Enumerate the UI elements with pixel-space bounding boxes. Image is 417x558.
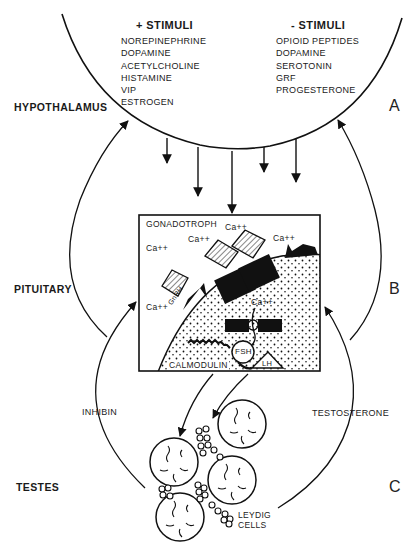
inhibin-label: INHIBIN bbox=[82, 407, 117, 417]
hypothalamus-label: HYPOTHALAMUS bbox=[14, 101, 107, 113]
negative-stimuli-title: - STIMULI bbox=[291, 19, 345, 31]
inhibin-loop bbox=[96, 302, 145, 488]
list-item: DOPAMINE bbox=[121, 47, 206, 59]
testes-label: TESTES bbox=[16, 481, 59, 493]
calmodulin-label: CALMODULIN bbox=[168, 360, 229, 370]
list-item: PROGESTERONE bbox=[276, 84, 359, 96]
left-long-loop bbox=[70, 121, 128, 337]
calcium-ion: Ca++ bbox=[188, 234, 210, 244]
list-item: GRF bbox=[276, 72, 359, 84]
positive-stimuli-title: + STIMULI bbox=[136, 19, 193, 31]
list-item: VIP bbox=[121, 84, 206, 96]
list-item: OPIOID PEPTIDES bbox=[276, 35, 359, 47]
leydig-line: LEYDIG bbox=[238, 510, 271, 520]
pituitary-label: PITUITARY bbox=[14, 283, 72, 295]
list-item: NOREPINEPHRINE bbox=[121, 35, 206, 47]
calcium-ion: Ca++ bbox=[225, 222, 247, 232]
list-item: ACETYLCHOLINE bbox=[121, 60, 206, 72]
list-item: SEROTONIN bbox=[276, 60, 359, 72]
calcium-ion: Ca++ bbox=[273, 233, 295, 243]
cells-line: CELLS bbox=[238, 520, 271, 530]
lh-label: LH bbox=[262, 359, 272, 368]
right-long-loop bbox=[338, 120, 381, 340]
calcium-ion: Ca++ bbox=[251, 297, 273, 307]
panel-letter-a: A bbox=[389, 97, 400, 115]
calcium-ion: Ca++ bbox=[146, 243, 168, 253]
list-item: ESTROGEN bbox=[121, 96, 206, 108]
diagram: + STIMULI NOREPINEPHRINE DOPAMINE ACETYL… bbox=[0, 0, 417, 558]
panel-letter-c: C bbox=[389, 478, 401, 496]
leydig-cells-label: LEYDIG CELLS bbox=[238, 510, 271, 530]
negative-stimuli-list: OPIOID PEPTIDES DOPAMINE SEROTONIN GRF P… bbox=[276, 35, 359, 96]
positive-stimuli-list: NOREPINEPHRINE DOPAMINE ACETYLCHOLINE HI… bbox=[121, 35, 206, 109]
testosterone-label: TESTOSTERONE bbox=[312, 408, 389, 418]
list-item: DOPAMINE bbox=[276, 47, 359, 59]
fsh-label: FSH bbox=[235, 347, 252, 356]
list-item: HISTAMINE bbox=[121, 72, 206, 84]
calcium-ion: Ca++ bbox=[146, 302, 168, 312]
panel-letter-b: B bbox=[389, 280, 400, 298]
gonadotroph-label: GONADOTROPH bbox=[146, 219, 217, 229]
